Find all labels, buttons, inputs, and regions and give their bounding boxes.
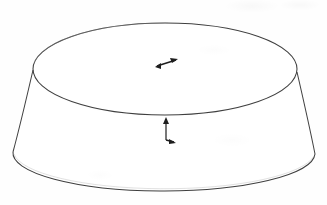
figure-canvas: Truncated cone (conical frustum) line dr… — [0, 0, 327, 205]
frustum-drawing — [0, 0, 327, 205]
top-face-fill — [33, 23, 297, 115]
